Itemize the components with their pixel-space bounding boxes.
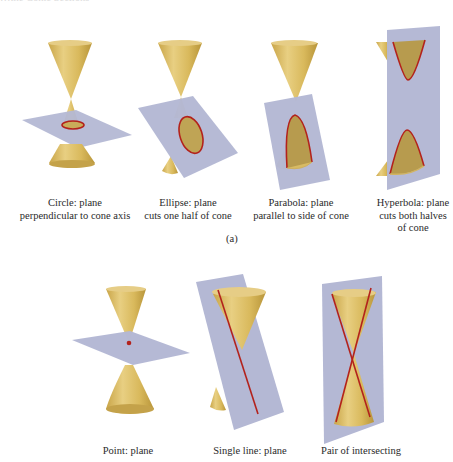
caption-line: perpendicular to cone axis <box>10 210 140 223</box>
caption-single-line: Single line: plane <box>200 445 300 458</box>
caption-line: of cone <box>370 222 453 235</box>
caption-line: cuts both halves <box>370 210 453 223</box>
conic-sections-figure: …the Conic Sections <box>0 0 453 462</box>
single-line-cone-diagram <box>196 272 296 442</box>
caption-parabola: Parabola: plane parallel to side of cone <box>246 197 356 222</box>
point-cone-diagram <box>70 285 195 425</box>
ellipse-cone-diagram <box>138 38 238 183</box>
panel-hyperbola <box>378 24 453 194</box>
caption-line: Ellipse: plane <box>138 197 238 210</box>
panel-circle <box>20 38 130 178</box>
caption-line: Single line: plane <box>200 445 300 458</box>
caption-ellipse: Ellipse: plane cuts one half of cone <box>138 197 238 222</box>
caption-point: Point: plane <box>88 445 168 458</box>
caption-line: parallel to side of cone <box>246 210 356 223</box>
caption-line: Circle: plane <box>10 197 140 210</box>
circle-cone-diagram <box>20 38 130 178</box>
caption-line: cuts one half of cone <box>138 210 238 223</box>
caption-line: Point: plane <box>88 445 168 458</box>
hyperbola-cone-diagram <box>378 24 453 194</box>
parabola-cone-diagram <box>262 38 352 188</box>
panel-single-line <box>196 272 296 442</box>
header-fragment: …the Conic Sections <box>0 0 89 3</box>
intersecting-lines-cone-diagram <box>322 272 392 447</box>
panel-point <box>70 285 195 425</box>
caption-intersecting-lines: Pair of intersecting <box>306 445 416 458</box>
caption-line: Hyperbola: plane <box>370 197 453 210</box>
panel-parabola <box>262 38 352 188</box>
caption-hyperbola: Hyperbola: plane cuts both halves of con… <box>370 197 453 235</box>
caption-circle: Circle: plane perpendicular to cone axis <box>10 197 140 222</box>
panel-ellipse <box>138 38 238 183</box>
caption-line: Parabola: plane <box>246 197 356 210</box>
row-a-label: (a) <box>226 233 238 244</box>
caption-line: Pair of intersecting <box>306 445 416 458</box>
panel-intersecting-lines <box>322 272 392 447</box>
